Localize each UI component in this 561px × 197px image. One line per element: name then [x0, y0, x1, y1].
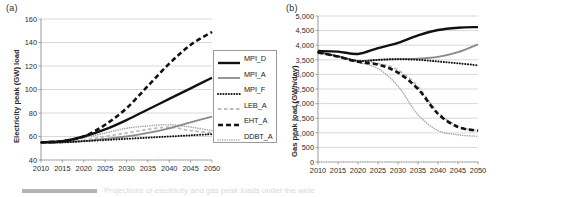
svg-text:2030: 2030	[390, 166, 406, 175]
legend-a: MPI_D MPI_A MPI_F LEB_A EHT_A DDBT_A	[213, 50, 277, 143]
svg-text:2025: 2025	[370, 166, 386, 175]
svg-text:2020: 2020	[76, 164, 92, 173]
svg-text:120: 120	[25, 62, 37, 71]
legend-label: MPI_F	[244, 85, 265, 94]
svg-text:2040: 2040	[430, 166, 446, 175]
svg-text:160: 160	[25, 15, 37, 24]
svg-text:2,500: 2,500	[296, 85, 315, 94]
legend-item: LEB_A	[214, 98, 276, 114]
series-line-eht-a	[318, 53, 478, 131]
svg-text:1,500: 1,500	[296, 114, 315, 123]
svg-text:1,000: 1,000	[296, 129, 315, 138]
svg-text:2045: 2045	[450, 166, 466, 175]
svg-text:2015: 2015	[330, 166, 346, 175]
figure-caption: Projections of electricity and gas peak …	[104, 186, 314, 195]
svg-text:4,000: 4,000	[296, 41, 315, 50]
svg-text:2040: 2040	[161, 164, 177, 173]
svg-text:5,000: 5,000	[296, 12, 315, 21]
svg-text:4,500: 4,500	[296, 26, 315, 35]
svg-text:2030: 2030	[118, 164, 134, 173]
series-line-mpi-d	[318, 27, 478, 54]
legend-swatch-mpi-d	[217, 54, 241, 64]
legend-label: MPI_A	[244, 70, 266, 79]
series-line-ddbt-a	[318, 53, 478, 137]
svg-text:2050: 2050	[204, 164, 220, 173]
figure-caption-strip: Projections of electricity and gas peak …	[0, 186, 561, 197]
legend-item: MPI_D	[214, 51, 276, 67]
svg-text:3,000: 3,000	[296, 70, 315, 79]
svg-text:80: 80	[29, 109, 37, 118]
legend-label: EHT_A	[244, 116, 267, 125]
legend-swatch-mpi-a	[217, 69, 241, 79]
legend-label: LEB_A	[244, 101, 267, 110]
chart-panel-b: (b) Gas peak load (GWh/day) 05001,0001,5…	[280, 0, 561, 182]
legend-item: MPI_F	[214, 82, 276, 98]
legend-swatch-mpi-f	[217, 85, 241, 95]
plot-area-b: 05001,0001,5002,0002,5003,0003,5004,0004…	[280, 0, 561, 182]
legend-swatch-ddbt-a	[217, 131, 241, 141]
svg-text:2035: 2035	[140, 164, 156, 173]
legend-label: MPI_D	[244, 54, 266, 63]
legend-item: DDBT_A	[214, 129, 276, 145]
series-line-leb-a	[318, 52, 478, 131]
svg-text:2020: 2020	[350, 166, 366, 175]
svg-text:140: 140	[25, 38, 37, 47]
svg-text:2015: 2015	[54, 164, 70, 173]
legend-item: EHT_A	[214, 113, 276, 129]
svg-text:60: 60	[29, 132, 37, 141]
figure-container: (a) Electricity peak (GW) load 406080100…	[0, 0, 561, 197]
svg-text:500: 500	[302, 143, 314, 152]
legend-item: MPI_A	[214, 67, 276, 83]
svg-text:3,500: 3,500	[296, 56, 315, 65]
svg-text:2050: 2050	[470, 166, 486, 175]
svg-text:2010: 2010	[33, 164, 49, 173]
legend-swatch-eht-a	[217, 116, 241, 126]
legend-label: DDBT_A	[244, 132, 273, 141]
svg-text:2045: 2045	[182, 164, 198, 173]
chart-panel-a: (a) Electricity peak (GW) load 406080100…	[0, 0, 280, 182]
svg-text:2,000: 2,000	[296, 99, 315, 108]
svg-text:2025: 2025	[97, 164, 113, 173]
caption-highlight-bar	[22, 189, 97, 193]
svg-text:100: 100	[25, 85, 37, 94]
svg-text:2010: 2010	[310, 166, 326, 175]
svg-text:2035: 2035	[410, 166, 426, 175]
legend-swatch-leb-a	[217, 100, 241, 110]
